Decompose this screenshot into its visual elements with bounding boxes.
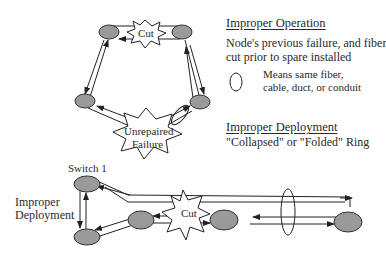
fiber-line bbox=[105, 187, 345, 202]
cut-label: Cut bbox=[138, 27, 154, 40]
failure-label-line1: Unrepaired bbox=[124, 125, 173, 138]
node-mid-right bbox=[190, 95, 210, 109]
fiber-line bbox=[95, 180, 350, 207]
ellipse-note-line2: cable, duct, or conduit bbox=[263, 81, 361, 94]
node-switch-1 bbox=[74, 176, 100, 192]
bottom-cut-label: Cut bbox=[181, 207, 197, 220]
arrow-up bbox=[90, 40, 108, 97]
arrow-down bbox=[85, 40, 104, 94]
same-conduit-ellipse bbox=[281, 189, 295, 235]
legend-ellipse-icon bbox=[230, 73, 242, 91]
improper-deployment-heading: Improper Deployment bbox=[226, 120, 337, 135]
arrow-left bbox=[95, 218, 133, 230]
side-label-line1: Improper bbox=[15, 195, 60, 209]
node-bottom-far-right bbox=[334, 212, 362, 232]
failure-label-line2: Failure bbox=[132, 138, 163, 151]
fiber-line bbox=[97, 225, 133, 237]
side-label-line2: Deployment bbox=[15, 208, 74, 222]
node-bottom-mid-right bbox=[210, 210, 238, 230]
improper-deployment-subtitle: "Collapsed" or "Folded" Ring bbox=[226, 135, 369, 149]
arrow-left bbox=[97, 186, 130, 195]
improper-operation-line1: Node's previous failure, and fiber bbox=[226, 36, 386, 50]
switch-label: Switch 1 bbox=[68, 162, 107, 175]
node-bottom-left bbox=[74, 229, 100, 245]
node-bottom-middle bbox=[128, 211, 154, 229]
node-mid-left bbox=[75, 94, 95, 108]
node-top-right bbox=[172, 25, 192, 39]
improper-operation-line2: cut prior to spare installed bbox=[226, 50, 351, 64]
ellipse-note-line1: Means same fiber, bbox=[263, 68, 344, 81]
arrow-up bbox=[186, 47, 193, 98]
node-top-left bbox=[99, 25, 119, 39]
improper-operation-heading: Improper Operation bbox=[226, 16, 326, 31]
